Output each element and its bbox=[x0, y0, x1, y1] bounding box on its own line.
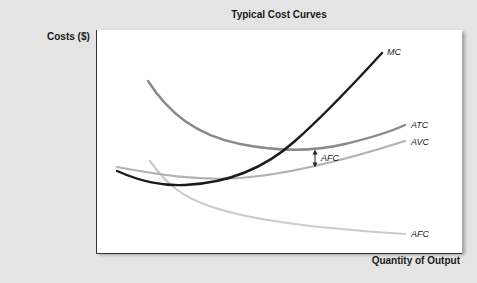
mc-curve bbox=[117, 53, 382, 185]
cost-curves-plot: MC ATC AVC AFC AFC bbox=[0, 0, 477, 283]
afc-curve bbox=[150, 161, 405, 234]
x-axis-label: Quantity of Output bbox=[372, 255, 460, 266]
afc-gap-label: AFC bbox=[320, 153, 340, 163]
atc-label: ATC bbox=[410, 120, 429, 130]
avc-label: AVC bbox=[410, 137, 430, 147]
mc-label: MC bbox=[387, 47, 401, 57]
atc-curve bbox=[148, 81, 405, 150]
afc-label: AFC bbox=[410, 229, 430, 239]
